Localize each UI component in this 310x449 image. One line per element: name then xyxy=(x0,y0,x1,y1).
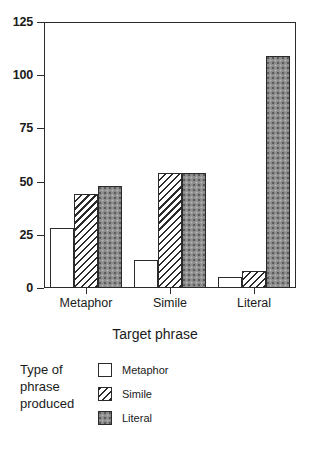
legend-swatch-metaphor xyxy=(98,363,112,377)
legend-item: Simile xyxy=(98,386,168,401)
bar xyxy=(266,56,290,288)
x-axis-tick-label: Metaphor xyxy=(60,296,113,311)
bar xyxy=(242,271,266,288)
y-axis-tick: 75 xyxy=(37,128,44,129)
bar xyxy=(50,228,74,288)
x-axis-tick xyxy=(170,288,171,294)
y-axis-tick: 0 xyxy=(37,288,44,289)
y-axis-tick-label: 0 xyxy=(26,281,33,296)
y-axis-tick: 100 xyxy=(37,75,44,76)
y-axis-tick-label: 75 xyxy=(19,121,33,136)
x-axis-tick xyxy=(254,288,255,294)
legend-item: Metaphor xyxy=(98,362,168,377)
y-axis-tick-label: 50 xyxy=(19,175,33,190)
legend-items: MetaphorSimileLiteral xyxy=(98,360,168,425)
bar xyxy=(218,277,242,288)
x-axis-title: Target phrase xyxy=(0,326,310,343)
legend-swatch-simile xyxy=(98,387,112,401)
bar xyxy=(134,260,158,288)
y-axis-tick-label: 100 xyxy=(13,68,33,83)
legend-item: Literal xyxy=(98,410,168,425)
x-axis-tick-label: Literal xyxy=(237,296,271,311)
legend-label: Simile xyxy=(122,387,152,401)
y-axis-tick: 50 xyxy=(37,182,44,183)
legend-swatch-literal xyxy=(98,411,112,425)
legend-title: Type of phrase produced xyxy=(20,360,98,412)
plot-area: 0255075100125 MetaphorSimileLiteral xyxy=(44,22,296,288)
x-axis-tick xyxy=(86,288,87,294)
grouped-bar-chart: 0255075100125 MetaphorSimileLiteral Targ… xyxy=(0,0,310,449)
x-axis-tick-label: Simile xyxy=(153,296,187,311)
legend-label: Literal xyxy=(122,411,152,425)
bar xyxy=(74,194,98,288)
y-axis-tick-label: 125 xyxy=(13,15,33,30)
legend-label: Metaphor xyxy=(122,363,168,377)
y-axis-tick: 125 xyxy=(37,22,44,23)
bar xyxy=(182,173,206,288)
y-axis-tick: 25 xyxy=(37,235,44,236)
bar xyxy=(98,186,122,288)
bar xyxy=(158,173,182,288)
y-axis-tick-label: 25 xyxy=(19,228,33,243)
legend: Type of phrase produced MetaphorSimileLi… xyxy=(20,360,300,425)
